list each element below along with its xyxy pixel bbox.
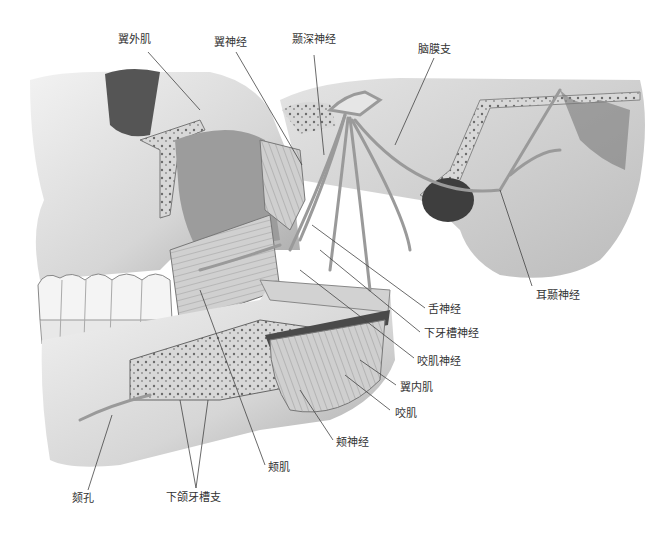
label-buccinator: 颊肌 <box>268 461 290 474</box>
label-inferior-dental-branches: 下颌牙槽支 <box>166 491 221 504</box>
label-pterygoid-nerve: 翼神经 <box>214 36 247 49</box>
label-masseter: 咬肌 <box>395 407 417 420</box>
label-auriculotemporal-nerve: 耳颞神经 <box>536 289 580 302</box>
label-lateral-pterygoid: 翼外肌 <box>118 33 151 46</box>
label-mental-foramen: 颏孔 <box>72 492 94 505</box>
label-buccal-nerve: 颊神经 <box>336 436 369 449</box>
label-deep-temporal-nerve: 颞深神经 <box>292 33 336 46</box>
label-inferior-alveolar-nerve: 下牙槽神经 <box>424 327 479 340</box>
anatomy-figure: 翼外肌 翼神经 颞深神经 脑膜支 耳颞神经 舌神经 下牙槽神经 咬肌神经 翼内肌… <box>0 0 660 536</box>
label-lingual-nerve: 舌神经 <box>428 303 461 316</box>
anatomy-illustration <box>0 0 660 536</box>
label-masseteric-nerve: 咬肌神经 <box>417 355 461 368</box>
label-meningeal-branch: 脑膜支 <box>418 43 451 56</box>
label-medial-pterygoid: 翼内肌 <box>400 381 433 394</box>
